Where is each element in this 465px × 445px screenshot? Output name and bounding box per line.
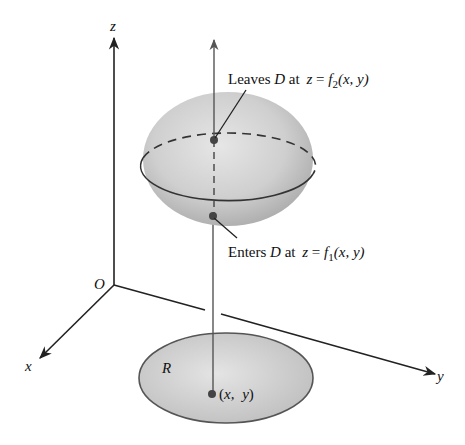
leaves-prefix: Leaves [228,71,274,87]
region-r-label: R [161,360,171,376]
x-axis [40,285,114,358]
y-axis-segment-1 [114,285,205,310]
leaves-set: D [273,71,285,87]
leaves-eq: = [312,71,328,87]
leaves-args: (x, y) [338,71,369,88]
origin-label: O [94,276,105,292]
solid-d-body [143,92,313,226]
point-x: x, [223,386,234,402]
z-axis-label: z [109,18,116,34]
x-axis-label: x [24,358,32,374]
enters-args: (x, y) [334,244,365,261]
enters-set: D [269,244,281,260]
region-r [139,333,313,423]
region-point-label: (x, y) [219,386,254,403]
point-y: y [240,386,249,402]
enters-eq: = [308,244,324,260]
enters-prefix: Enters [228,244,270,260]
triple-integral-region-figure: z x y O R (x, y) Leaves D at z = f2(x, y… [0,0,465,445]
solid-d [141,92,316,226]
region-r-ellipse [139,333,313,423]
leaves-annotation: Leaves D at z = f2(x, y) [228,71,369,90]
enters-middle: at [281,244,299,260]
region-point-dot [208,390,216,398]
enters-annotation: Enters D at z = f1(x, y) [228,244,365,263]
diagram-canvas: z x y O R (x, y) Leaves D at z = f2(x, y… [0,0,465,445]
leaves-middle: at [285,71,303,87]
y-axis-label: y [435,368,444,384]
exit-point-dot [210,136,218,144]
